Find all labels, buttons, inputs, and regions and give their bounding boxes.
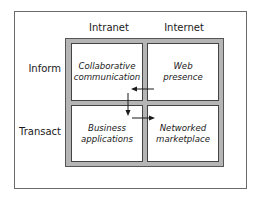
arrow-right-icon [132,116,155,121]
arrow-down-icon [126,93,131,116]
flow-arrows [0,0,257,202]
arrow-left-icon [131,87,154,92]
